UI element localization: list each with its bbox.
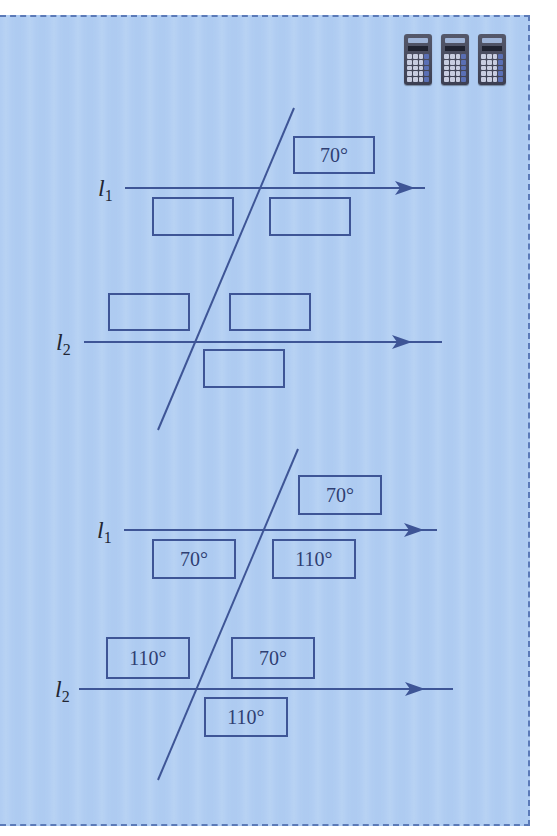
label-l1: l1: [97, 518, 112, 546]
angle-box-l2-above-right[interactable]: [229, 293, 311, 331]
angle-box-l1-below-left: 70°: [152, 539, 236, 579]
angle-box-l1-above-right: 70°: [293, 136, 375, 174]
angle-box-l2-above-left[interactable]: [108, 293, 190, 331]
angle-box-l1-below-right[interactable]: [269, 197, 351, 236]
angle-box-l2-above-right: 70°: [231, 637, 315, 679]
angle-box-l2-below-right: 110°: [204, 697, 288, 737]
angle-box-l1-below-left[interactable]: [152, 197, 234, 236]
label-l1: l1: [98, 176, 113, 204]
angle-box-l1-above-right: 70°: [298, 475, 382, 515]
angle-box-l2-below-right[interactable]: [203, 349, 285, 388]
label-l2: l2: [55, 677, 70, 705]
angle-box-l1-below-right: 110°: [272, 539, 356, 579]
label-l2: l2: [56, 330, 71, 358]
angle-box-l2-above-left: 110°: [106, 637, 190, 679]
